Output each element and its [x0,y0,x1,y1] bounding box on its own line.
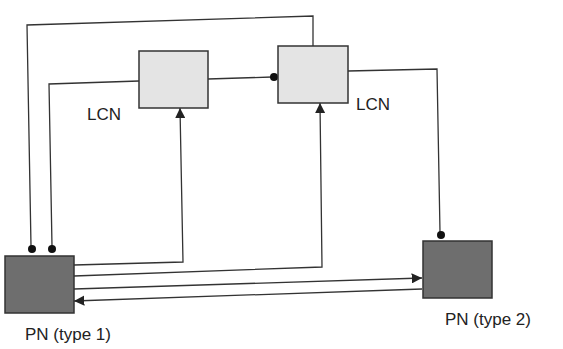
connector-dot [48,245,56,253]
link-lcn1-lcn2 [208,77,272,79]
connector-dot [270,73,278,81]
pn1-label: PN (type 1) [25,325,111,344]
link-pn1-lcn1 [74,108,183,265]
link-lcn2-pn2 [348,69,440,232]
pn1-node[interactable] [5,256,74,313]
connector-dot [28,245,36,253]
network-diagram: LCN LCN PN (type 1) PN (type 2) [0,0,563,349]
link-pn1-pn2 [74,278,422,289]
pn2-node[interactable] [423,241,492,298]
connector-dot [437,231,445,239]
pn2-label: PN (type 2) [445,310,531,329]
lcn1-label: LCN [87,105,121,124]
lcn2-node[interactable] [278,46,348,103]
lcn1-node[interactable] [139,51,208,108]
link-pn2-pn1 [74,289,422,301]
link-pn1-lcn2 [74,103,322,276]
lcn2-label: LCN [356,95,390,114]
